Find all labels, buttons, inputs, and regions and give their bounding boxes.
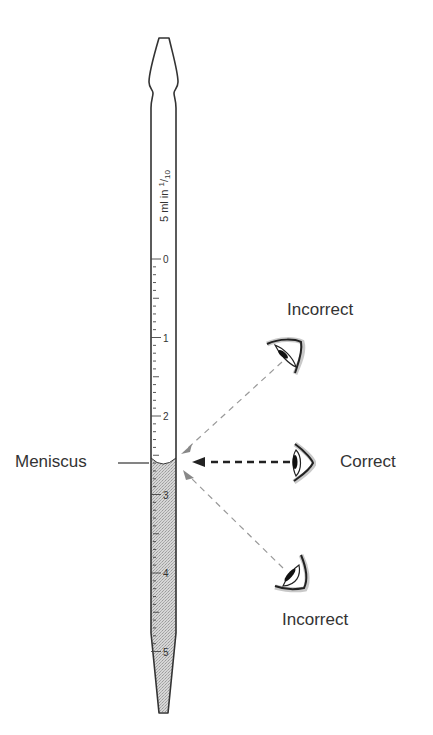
pipette-label: 5 ml in 1/10 — [157, 170, 172, 222]
meniscus-label: Meniscus — [15, 452, 87, 472]
eye-below-icon — [275, 555, 307, 590]
eye-level-icon — [293, 444, 315, 482]
incorrect-bottom-label: Incorrect — [282, 610, 348, 630]
graduation-number: 2 — [163, 411, 169, 422]
sightline-top — [181, 362, 282, 454]
graduation-number: 4 — [163, 568, 169, 579]
graduation-number: 3 — [163, 490, 169, 501]
pipette-diagram: 5 ml in 1/10 012345 — [0, 0, 433, 735]
correct-label: Correct — [340, 452, 396, 472]
graduation-number: 1 — [163, 333, 169, 344]
incorrect-top-label: Incorrect — [287, 300, 353, 320]
eye-above-icon — [267, 340, 303, 374]
graduation-number: 5 — [163, 647, 169, 658]
sightline-correct — [192, 457, 290, 467]
sightline-bottom — [183, 470, 283, 568]
graduation-number: 0 — [163, 254, 169, 265]
